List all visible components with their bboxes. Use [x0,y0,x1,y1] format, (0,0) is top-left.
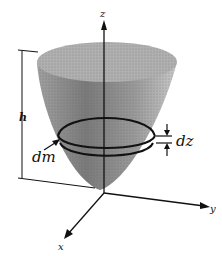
paraboloid-surface [37,42,177,190]
y-axis-label: y [209,203,216,214]
dz-label: dz [176,132,194,150]
x-axis: x [58,193,104,252]
paraboloid-diagram: z y x h dm dz [0,0,222,256]
x-axis-label: x [58,241,64,252]
y-axis: y [104,193,216,214]
z-axis-label: z [99,8,106,19]
height-label: h [19,111,27,124]
dz-marker [156,124,172,156]
dm-label: dm [32,148,56,166]
